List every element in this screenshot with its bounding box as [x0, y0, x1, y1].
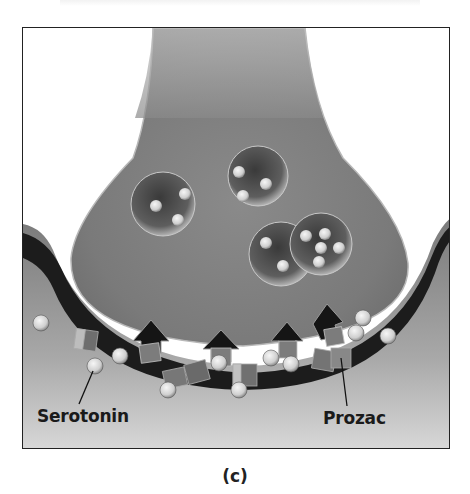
- synapse-illustration-panel: Serotonin Prozac: [22, 27, 450, 449]
- prozac-label: Prozac: [323, 408, 386, 428]
- synapse-illustration: [23, 28, 450, 449]
- vesicle: [228, 146, 288, 206]
- vesicle: [290, 213, 352, 275]
- panel-caption: (c): [0, 466, 470, 486]
- vesicle: [131, 172, 195, 236]
- serotonin-label: Serotonin: [37, 406, 129, 426]
- cropped-text-remnant: [60, 0, 420, 6]
